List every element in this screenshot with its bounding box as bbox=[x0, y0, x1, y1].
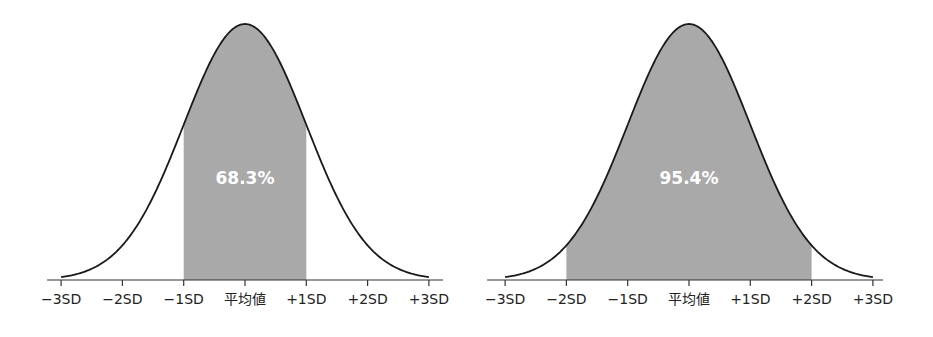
chart-left-68-percent: −3SD −2SD −1SD 平均値 +1SD +2SD +3SD 68.3% bbox=[41, 24, 449, 307]
tick-label: −1SD bbox=[608, 291, 648, 307]
shaded-area-2sd bbox=[566, 24, 811, 280]
tick-label: −2SD bbox=[102, 291, 142, 307]
x-axis-ticks bbox=[505, 280, 873, 286]
tick-label: +2SD bbox=[791, 291, 831, 307]
tick-label-mean: 平均値 bbox=[224, 291, 266, 307]
tick-label: +3SD bbox=[409, 291, 449, 307]
tick-label: +1SD bbox=[730, 291, 770, 307]
tick-label: +2SD bbox=[347, 291, 387, 307]
tick-label: −3SD bbox=[41, 291, 81, 307]
tick-label-mean: 平均値 bbox=[668, 291, 710, 307]
shaded-area-1sd bbox=[184, 24, 307, 280]
chart-right-95-percent: −3SD −2SD −1SD 平均値 +1SD +2SD +3SD 95.4% bbox=[485, 24, 893, 307]
x-axis-tick-labels: −3SD −2SD −1SD 平均値 +1SD +2SD +3SD bbox=[41, 291, 449, 307]
tick-label: +1SD bbox=[286, 291, 326, 307]
x-axis-ticks bbox=[61, 280, 429, 286]
tick-label: −2SD bbox=[546, 291, 586, 307]
tick-label: +3SD bbox=[853, 291, 893, 307]
percent-label: 95.4% bbox=[660, 168, 719, 188]
percent-label: 68.3% bbox=[216, 168, 275, 188]
normal-distribution-figure: −3SD −2SD −1SD 平均値 +1SD +2SD +3SD 68.3% … bbox=[0, 0, 933, 337]
tick-label: −1SD bbox=[164, 291, 204, 307]
tick-label: −3SD bbox=[485, 291, 525, 307]
x-axis-tick-labels: −3SD −2SD −1SD 平均値 +1SD +2SD +3SD bbox=[485, 291, 893, 307]
